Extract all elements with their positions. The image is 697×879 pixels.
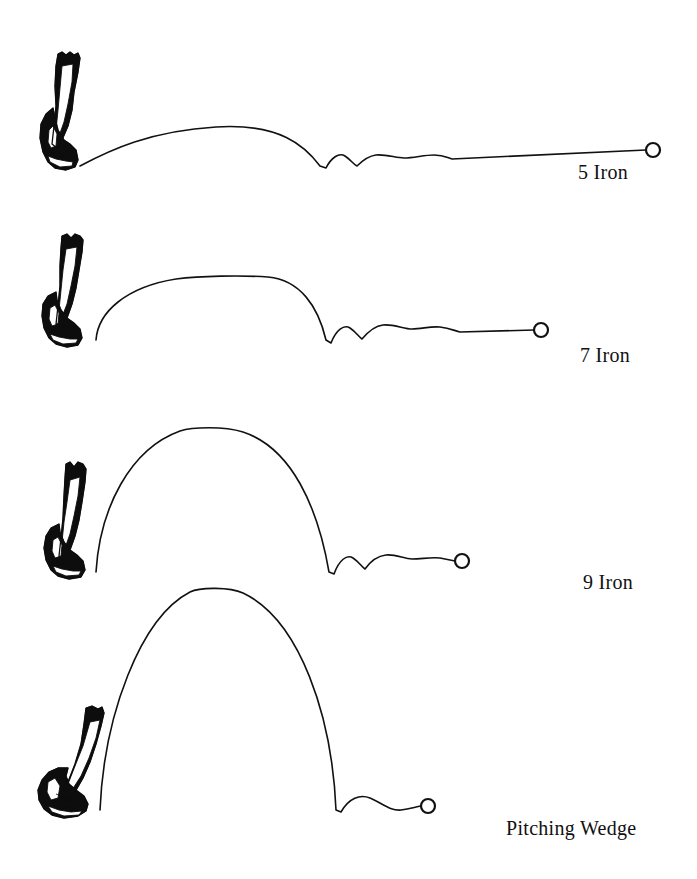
trajectory-path-7-iron [96, 276, 534, 343]
ball-marker-pitching-wedge [421, 799, 435, 813]
shot-label-7-iron: 7 Iron [580, 345, 630, 365]
golf-club-icon-pitching-wedge [38, 706, 104, 818]
shot-label-5-iron: 5 Iron [578, 162, 628, 182]
golf-club-icon-9-iron [44, 462, 86, 579]
ball-marker-9-iron [455, 554, 469, 568]
ball-marker-7-iron [534, 323, 548, 337]
golf-club-icon-5-iron [40, 52, 80, 170]
golf-club-icon-7-iron [42, 234, 83, 347]
shot-group-7-iron [42, 234, 548, 347]
golf-trajectory-figure: 5 Iron 7 Iron 9 Iron Pitching Wedge [0, 0, 697, 879]
trajectory-path-5-iron [80, 127, 646, 168]
shot-group-9-iron [44, 428, 469, 579]
trajectory-path-9-iron [96, 428, 455, 574]
shot-group-pitching-wedge [38, 588, 435, 818]
trajectory-canvas [0, 0, 697, 879]
ball-marker-5-iron [646, 143, 660, 157]
shot-group-5-iron [40, 52, 660, 170]
shot-label-9-iron: 9 Iron [583, 572, 633, 592]
shot-label-pitching-wedge: Pitching Wedge [506, 818, 637, 838]
trajectory-path-pitching-wedge [100, 588, 421, 812]
